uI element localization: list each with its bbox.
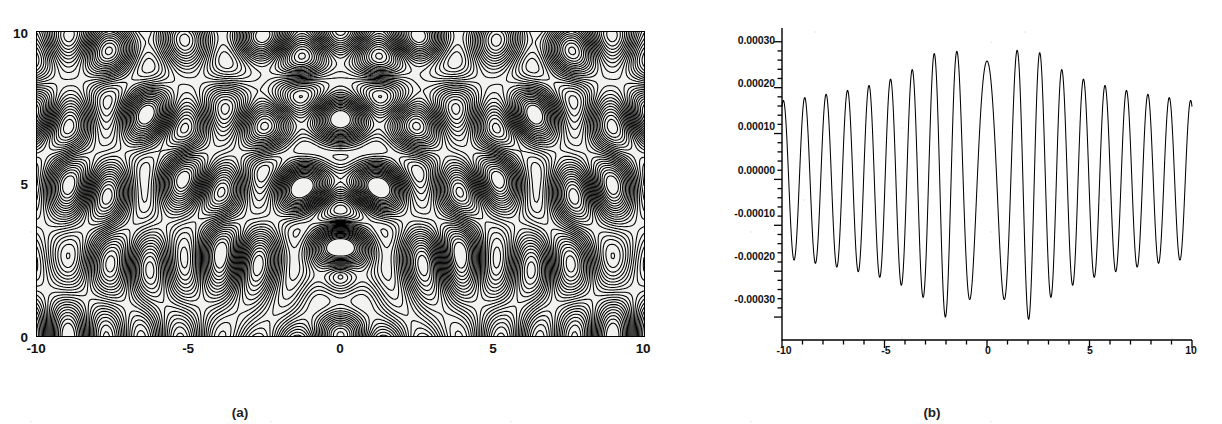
panel-b-ytick-p30: 0.00030 — [738, 34, 775, 46]
panel-b-xtick-1: -5 — [881, 344, 890, 356]
panel-a-xtick-3: 5 — [489, 341, 496, 356]
panel-a-ytick-10: 10 — [13, 26, 28, 41]
panel-a-contour-field — [37, 32, 644, 336]
panel-b-line-plot: 0.00030 0.00020 0.00010 0.00000 -0.00010… — [670, 0, 1222, 424]
panel-b-ytick-m10: -0.00010 — [734, 207, 775, 219]
panel-a-xtick-4: 10 — [636, 341, 651, 356]
panel-b-ytick-zero: 0.00000 — [738, 164, 775, 176]
panel-a-caption: (a) — [232, 405, 249, 420]
panel-b-xtick-0: -10 — [776, 344, 791, 356]
panel-b-ytick-p20: 0.00020 — [738, 77, 775, 89]
panel-b-xtick-3: 5 — [1087, 344, 1093, 356]
panel-a-xtick-0: -10 — [27, 341, 46, 356]
panel-a-xtick-2: 0 — [336, 341, 343, 356]
panel-b-xtick-2: 0 — [985, 344, 991, 356]
panel-b-caption: (b) — [923, 405, 940, 420]
panel-a-xtick-1: -5 — [182, 341, 194, 356]
panel-b-ytick-p10: 0.00010 — [738, 120, 775, 132]
panel-a-ytick-5: 5 — [20, 177, 28, 192]
panel-a-contour-plot: -10 -5 0 5 10 0 5 10 (a) — [0, 0, 670, 424]
panel-a-ytick-0: 0 — [20, 330, 28, 345]
figure-root: -10 -5 0 5 10 0 5 10 (a) 0.00030 0.00020… — [0, 0, 1222, 424]
panel-b-waveform — [782, 28, 1192, 340]
panel-b-ytick-m20: -0.00020 — [734, 250, 775, 262]
panel-b-ytick-m30: -0.00030 — [734, 293, 775, 305]
panel-b-xtick-4: 10 — [1185, 344, 1197, 356]
panel-a-plot-frame — [36, 31, 645, 337]
panel-b-plot-area — [782, 28, 1192, 340]
